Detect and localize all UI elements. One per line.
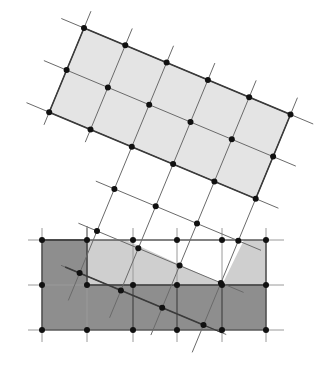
axis-lattice-node [39,282,45,288]
rotated-lattice-node [229,136,235,142]
rotated-lattice-node [177,263,183,269]
rotated-lattice-node [205,77,211,83]
rotated-lattice-node [122,42,128,48]
axis-lattice-node [263,237,269,243]
axis-lattice-node [219,282,225,288]
rotated-lattice-node [270,154,276,160]
rotated-lattice-node [194,221,200,227]
rotated-lattice-node [246,94,252,100]
rotated-lattice-node [201,322,207,328]
rotated-lattice-node [46,109,52,115]
rotated-lattice-node [77,270,83,276]
rotated-lattice-node [164,60,170,66]
axis-lattice-node [84,237,90,243]
rotated-lattice-node [88,127,94,133]
axis-lattice-node [219,237,225,243]
axis-lattice-node [174,237,180,243]
rotated-lattice-node [129,144,135,150]
axis-lattice-node [130,327,136,333]
axis-lattice-node [84,282,90,288]
rotated-lattice-node [170,161,176,167]
rotated-lattice-node [64,67,70,73]
axis-lattice-node [130,282,136,288]
axis-lattice-node [84,327,90,333]
axis-lattice-node [219,327,225,333]
rotated-lattice-node [118,287,124,293]
rotated-lattice-node [253,196,259,202]
rotated-lattice-node [159,305,165,311]
rotated-lattice-node [81,25,87,31]
rotated-lattice-node [111,186,117,192]
axis-lattice-node [39,237,45,243]
rotated-lattice-node [235,238,241,244]
light-region-left [87,240,222,285]
rotated-lattice-node [288,112,294,118]
rotated-lattice-node [94,228,100,234]
rotated-lattice-node [105,84,111,90]
axis-lattice-node [263,282,269,288]
light-region-right [222,240,266,285]
rotated-lattice-node [188,119,194,125]
axis-lattice-node [174,327,180,333]
rotated-lattice-node [135,245,141,251]
rotated-lattice-node [146,102,152,108]
axis-lattice-node [39,327,45,333]
axis-lattice-node [130,237,136,243]
rotated-lattice-node [153,203,159,209]
lattice-diagram [0,0,325,366]
axis-lattice-node [263,327,269,333]
axis-lattice-node [174,282,180,288]
rotated-lattice-node [211,178,217,184]
